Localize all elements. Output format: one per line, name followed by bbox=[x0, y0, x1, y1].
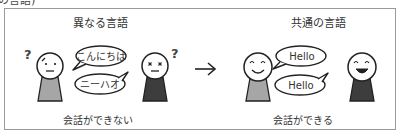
bubble-text-konnichiwa: こんにちは bbox=[76, 51, 126, 62]
left-panel-caption: 会話ができない bbox=[38, 112, 158, 127]
arrow-right-icon bbox=[195, 63, 215, 75]
laughing-person-icon bbox=[348, 53, 376, 101]
bubble-text-hello-bottom: Hello bbox=[288, 80, 313, 91]
question-mark-icon: ? bbox=[24, 47, 32, 62]
question-mark-icon: ? bbox=[171, 46, 179, 61]
bubble-text-nihao: ニーハオ bbox=[80, 79, 120, 90]
right-panel-caption: 会話ができる bbox=[243, 112, 363, 127]
bubble-text-hello-top: Hello bbox=[289, 51, 314, 62]
confused-person-icon bbox=[37, 53, 63, 101]
smiling-person-icon bbox=[244, 53, 272, 101]
x-eyes-person-icon bbox=[142, 53, 168, 101]
